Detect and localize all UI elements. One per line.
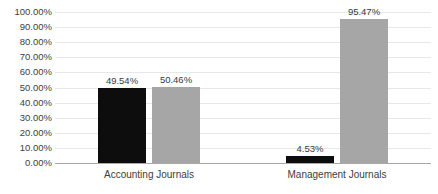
category-label: Management Journals: [243, 169, 431, 181]
y-axis-tick-label: 70.00%: [0, 52, 52, 62]
y-axis-tick-label: 60.00%: [0, 67, 52, 77]
bar: [286, 156, 334, 163]
y-axis-tick-label: 0.00%: [0, 158, 52, 168]
y-axis-tick-label: 20.00%: [0, 128, 52, 138]
bar: [340, 19, 388, 163]
axis-baseline: [55, 163, 431, 164]
bar-chart: 100.00%90.00%80.00%70.00%60.00%50.00%40.…: [0, 0, 438, 194]
bar: [98, 88, 146, 163]
y-axis-tick-label: 80.00%: [0, 37, 52, 47]
bar-value-label: 4.53%: [278, 143, 342, 154]
y-axis-tick-labels: 100.00%90.00%80.00%70.00%60.00%50.00%40.…: [0, 0, 52, 194]
y-axis-tick-label: 100.00%: [0, 7, 52, 17]
y-axis-tick-label: 90.00%: [0, 22, 52, 32]
y-axis-tick-label: 50.00%: [0, 83, 52, 93]
plot-area: [55, 12, 431, 163]
bar-value-label: 50.46%: [144, 74, 208, 85]
y-axis-tick-label: 40.00%: [0, 98, 52, 108]
bar: [152, 87, 200, 163]
y-axis-tick-label: 10.00%: [0, 143, 52, 153]
category-label: Accounting Journals: [55, 169, 243, 181]
y-axis-tick-label: 30.00%: [0, 113, 52, 123]
bar-value-label: 95.47%: [332, 6, 396, 17]
